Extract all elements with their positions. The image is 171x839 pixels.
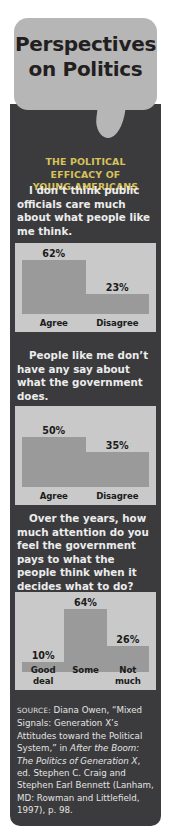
chart-3: 10%64%26% Good dealSomeNot much [15,592,156,690]
axis-tick-label: Agree [22,318,86,329]
bar [86,294,150,314]
page-title: Perspectives on Politics [14,32,157,82]
chart-1-plot: 62%23% [22,249,149,314]
chart-3-bars: 10%64%26% [22,598,149,672]
bar-slot: 10% [22,598,64,672]
bar-slot: 26% [107,598,149,672]
title-line-1: Perspectives [14,32,157,57]
axis-tick-label: Some [64,665,106,687]
chart-3-axis-labels: Good dealSomeNot much [22,665,149,687]
source-citation: SOURCE: Diana Owen, “Mixed Signals: Gene… [17,704,154,817]
bar-slot: 50% [22,412,86,487]
axis-tick-label: Good deal [22,665,64,687]
title-line-2: on Politics [14,57,157,82]
axis-tick-label: Agree [22,491,86,502]
chart-2-bars: 50%35% [22,412,149,487]
bar-value-label: 50% [22,425,86,436]
bar [22,260,86,314]
chart-1: 62%23% AgreeDisagree [15,243,156,332]
bar-slot: 64% [64,598,106,672]
bar-value-label: 26% [107,634,149,645]
chart-3-plot: 10%64%26% [22,598,149,672]
axis-tick-label: Not much [107,665,149,687]
content-area: THE POLITICAL EFFICACY OF YOUNG AMERICAN… [10,104,161,826]
bar [86,452,150,487]
chart-2-axis-labels: AgreeDisagree [22,491,149,502]
axis-tick-label: Disagree [86,318,150,329]
question-1-text: I don’t think public officials care much… [17,184,154,238]
question-3-text: Over the years, how much attention do yo… [17,512,154,594]
bar-value-label: 10% [22,650,64,661]
bar-value-label: 64% [64,597,106,608]
bar-value-label: 35% [86,440,150,451]
chart-2-plot: 50%35% [22,412,149,487]
subtitle-line-1: THE POLITICAL EFFICACY OF [18,156,153,181]
bar-slot: 35% [86,412,150,487]
bar-value-label: 62% [22,248,86,259]
chart-1-bars: 62%23% [22,249,149,314]
bar-value-label: 23% [86,282,150,293]
bar-slot: 62% [22,249,86,314]
question-2-text: People like me don’t have any say about … [17,349,154,403]
bar-slot: 23% [86,249,150,314]
bar [22,437,86,487]
bar [64,609,106,672]
chart-1-axis-labels: AgreeDisagree [22,318,149,329]
title-speech-bubble: Perspectives on Politics [14,18,157,110]
source-label: SOURCE: [17,706,51,715]
axis-tick-label: Disagree [86,491,150,502]
infographic-panel: Perspectives on Politics THE POLITICAL E… [0,0,171,839]
chart-2: 50%35% AgreeDisagree [15,406,156,505]
